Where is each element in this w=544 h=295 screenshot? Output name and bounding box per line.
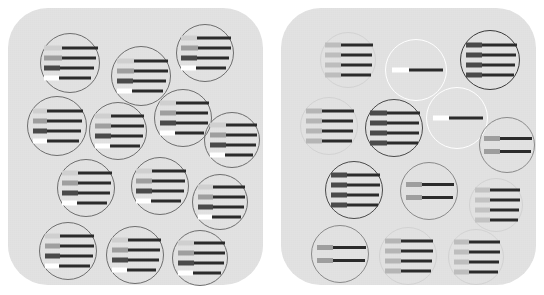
circle-glyph [460, 30, 520, 90]
bar-row [132, 169, 192, 174]
bar-row [177, 56, 237, 61]
bar-group [461, 43, 519, 78]
bar-right-segment [47, 130, 81, 133]
bar-left-segment [33, 119, 47, 124]
bar-right-segment [401, 240, 433, 243]
bar-row [480, 136, 538, 141]
bar-right-segment [490, 189, 520, 192]
bar-row [427, 116, 493, 121]
bar-left-segment [317, 258, 333, 263]
bar-left-segment [62, 191, 78, 196]
bar-right-segment [387, 112, 420, 115]
circle-glyph [469, 178, 523, 232]
bar-row [107, 268, 168, 273]
bar-row [480, 149, 538, 154]
bar-right-segment [213, 186, 245, 189]
circle-glyph [448, 229, 504, 285]
bar-row [470, 208, 527, 213]
bar-left-segment [475, 198, 490, 203]
bar-group [107, 238, 163, 273]
bar-row [28, 139, 91, 144]
bar-row [470, 218, 527, 223]
bar-group [177, 36, 233, 71]
bar-right-segment [226, 124, 257, 127]
bar-row [193, 205, 252, 210]
bar-right-segment [198, 47, 231, 50]
circle-glyph [57, 159, 115, 217]
bar-right-segment [133, 80, 166, 83]
bar-left-segment [385, 239, 401, 244]
bar-right-segment [176, 102, 209, 105]
bar-right-segment [134, 60, 168, 63]
bar-right-segment [196, 67, 226, 70]
bar-right-segment [60, 235, 94, 238]
bar-left-segment [160, 121, 176, 126]
bar-right-segment [500, 150, 531, 153]
bar-right-segment [134, 70, 168, 73]
bar-row [58, 171, 118, 176]
bar-left-segment [454, 250, 469, 255]
bar-left-segment [406, 195, 422, 200]
bar-left-segment [178, 271, 193, 276]
bar-group [173, 241, 227, 276]
circle-glyph [27, 96, 87, 156]
bar-row [380, 239, 441, 244]
bar-left-segment [454, 260, 469, 265]
bar-group [401, 182, 457, 200]
bar-row [28, 109, 91, 114]
bar-right-segment [409, 69, 443, 72]
bar-row [90, 124, 151, 129]
bar-right-segment [347, 204, 378, 207]
bar-row [112, 79, 175, 84]
bar-left-segment [44, 66, 60, 71]
bar-row [177, 66, 237, 71]
bar-row [193, 215, 252, 220]
bar-right-segment [225, 154, 253, 157]
bar-group [470, 188, 522, 223]
bar-row [205, 123, 264, 128]
bar-left-segment [33, 139, 47, 144]
bar-left-segment [466, 53, 482, 58]
bar-right-segment [401, 270, 431, 273]
bar-left-segment [117, 79, 133, 84]
bar-right-segment [60, 245, 94, 248]
bar-left-segment [331, 193, 347, 198]
bar-right-segment [152, 180, 185, 183]
bar-left-segment [45, 234, 60, 239]
bar-right-segment [47, 110, 83, 113]
bar-row [155, 111, 216, 116]
bar-left-segment [112, 248, 128, 253]
bar-row [90, 144, 151, 149]
bar-left-segment [136, 199, 151, 204]
bar-row [301, 109, 362, 114]
bar-row [461, 63, 524, 68]
bar-group [40, 234, 96, 269]
bar-row [193, 185, 252, 190]
bar-right-segment [341, 44, 373, 47]
bar-right-segment [194, 242, 225, 245]
circle-glyph [172, 230, 228, 286]
bar-right-segment [422, 196, 453, 199]
bar-row [155, 101, 216, 106]
bar-left-segment [385, 259, 401, 264]
bar-row [112, 69, 175, 74]
bar-right-segment [333, 259, 365, 262]
bar-left-segment [112, 268, 127, 273]
bar-left-segment [475, 208, 490, 213]
bar-left-segment [160, 111, 176, 116]
bar-left-segment [112, 258, 128, 263]
bar-right-segment [62, 47, 98, 50]
bar-right-segment [226, 134, 257, 137]
figure-canvas [0, 0, 544, 295]
bar-group [112, 59, 170, 94]
bar-row [449, 240, 508, 245]
bar-left-segment [306, 139, 322, 144]
bar-left-segment [466, 43, 482, 48]
bar-right-segment [500, 137, 532, 140]
bar-left-segment [45, 264, 59, 269]
bar-row [321, 63, 379, 68]
bar-left-segment [466, 63, 482, 68]
bar-left-segment [44, 56, 62, 61]
bar-left-segment [136, 179, 152, 184]
bar-right-segment [128, 259, 159, 262]
